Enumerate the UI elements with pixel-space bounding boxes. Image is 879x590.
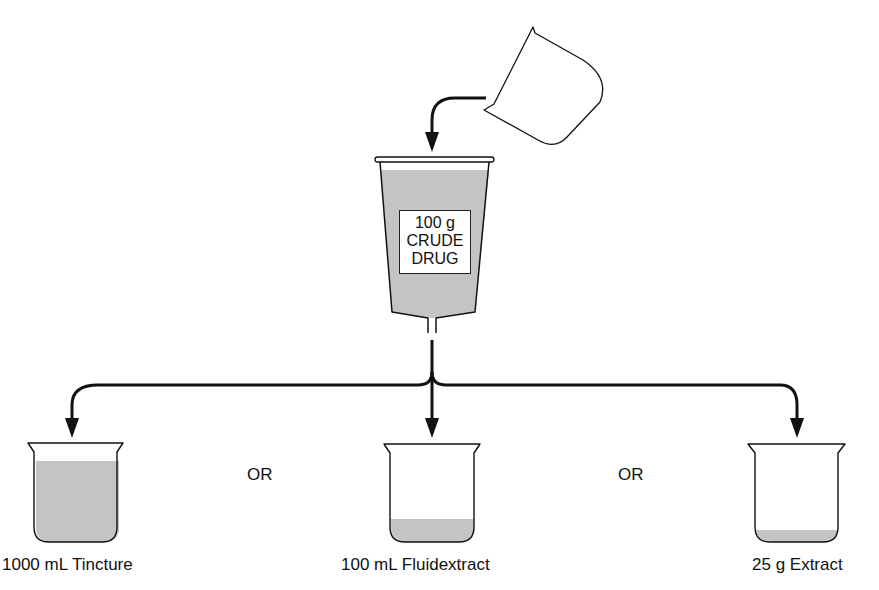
tincture-label: 1000 mL Tincture (2, 555, 133, 575)
tincture-beaker-icon (28, 443, 123, 542)
extract-beaker-icon (748, 444, 845, 542)
crude-drug-line2: CRUDE (400, 232, 470, 250)
crude-drug-amount: 100 g (400, 214, 470, 232)
extract-label: 25 g Extract (752, 555, 843, 575)
crude-drug-label: 100 g CRUDE DRUG (399, 210, 471, 274)
fluidextract-label: 100 mL Fluidextract (341, 555, 490, 575)
fluidextract-beaker-icon (384, 444, 480, 542)
or-separator-1: OR (247, 465, 273, 485)
pouring-beaker-icon (484, 27, 603, 144)
branch-arrows-icon (65, 340, 804, 438)
pour-arrow-icon (425, 98, 486, 152)
or-separator-2: OR (618, 465, 644, 485)
percolation-diagram (0, 0, 879, 590)
crude-drug-line3: DRUG (400, 250, 470, 268)
